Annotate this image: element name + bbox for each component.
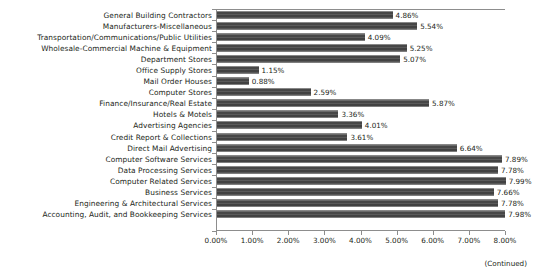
bar-value-label: 7.78% xyxy=(501,166,524,173)
category-label: Finance/Insurance/Real Estate xyxy=(99,99,212,108)
bar-group: 5.25% xyxy=(217,44,433,51)
bar xyxy=(217,11,393,18)
bar-value-label: 6.64% xyxy=(460,144,483,151)
bar xyxy=(217,22,417,29)
x-axis-tick-label: 3.00% xyxy=(313,236,336,245)
bar-group: 2.59% xyxy=(217,89,336,96)
x-axis-tick xyxy=(361,231,362,235)
bar xyxy=(217,200,498,207)
y-axis-tick xyxy=(212,42,216,43)
bar-value-label: 5.87% xyxy=(432,100,455,107)
category-label: Business Services xyxy=(145,188,212,197)
y-axis-tick xyxy=(212,20,216,21)
category-label: Mail Order Houses xyxy=(143,77,212,86)
y-axis-tick xyxy=(212,131,216,132)
category-label: Computer Software Services xyxy=(106,154,212,163)
continued-note: (Continued) xyxy=(485,259,528,268)
bar xyxy=(217,133,347,140)
x-axis-tick-label: 2.00% xyxy=(277,236,300,245)
bar-group: 4.09% xyxy=(217,33,391,40)
chart-row: Department Stores5.07% xyxy=(0,53,533,64)
category-label: Computer Stores xyxy=(149,88,212,97)
chart-row: Computer Stores2.59% xyxy=(0,87,533,98)
bar-group: 5.54% xyxy=(217,22,443,29)
chart-row: Computer Software Services7.89% xyxy=(0,153,533,164)
bar-value-label: 7.98% xyxy=(508,211,531,218)
x-axis-tick-label: 6.00% xyxy=(421,236,444,245)
bar-value-label: 4.01% xyxy=(365,122,388,129)
bar-value-label: 7.99% xyxy=(509,177,532,184)
bar-group: 4.01% xyxy=(217,122,388,129)
bar-value-label: 0.88% xyxy=(252,78,275,85)
chart-row: General Building Contractors4.86% xyxy=(0,9,533,20)
bar xyxy=(217,67,259,74)
category-label: Office Supply Stores xyxy=(136,66,212,75)
bar-group: 0.88% xyxy=(217,78,275,85)
category-label: General Building Contractors xyxy=(104,10,212,19)
category-label: Credit Report & Collections xyxy=(111,132,212,141)
category-label: Manufacturers-Miscellaneous xyxy=(103,21,212,30)
category-label: Data Processing Services xyxy=(118,165,212,174)
y-axis-tick xyxy=(212,76,216,77)
chart-row: Computer Related Services7.99% xyxy=(0,175,533,186)
bar-group: 5.07% xyxy=(217,55,426,62)
chart-row: Business Services7.66% xyxy=(0,187,533,198)
category-label: Accounting, Audit, and Bookkeeping Servi… xyxy=(42,210,212,219)
bar xyxy=(217,100,429,107)
x-axis-tick xyxy=(433,231,434,235)
category-label: Hotels & Motels xyxy=(153,110,212,119)
x-axis-tick-label: 5.00% xyxy=(385,236,408,245)
bar-value-label: 7.89% xyxy=(505,155,528,162)
bar-value-label: 5.54% xyxy=(420,22,443,29)
y-axis-tick xyxy=(212,153,216,154)
y-axis-tick xyxy=(212,98,216,99)
chart-row: Mail Order Houses0.88% xyxy=(0,76,533,87)
chart-row: Engineering & Architectural Services7.78… xyxy=(0,198,533,209)
category-label: Wholesale-Commercial Machine & Equipment xyxy=(41,43,212,52)
bar-group: 1.15% xyxy=(217,67,284,74)
x-axis-tick xyxy=(397,231,398,235)
bar-group: 7.89% xyxy=(217,155,528,162)
y-axis-tick xyxy=(212,120,216,121)
bar-value-label: 3.36% xyxy=(341,111,364,118)
category-label: Transportation/Communications/Public Uti… xyxy=(37,32,212,41)
bar xyxy=(217,89,311,96)
bar-group: 5.87% xyxy=(217,100,455,107)
bar xyxy=(217,55,400,62)
bar xyxy=(217,44,407,51)
x-axis-tick xyxy=(469,231,470,235)
bar-group: 7.78% xyxy=(217,166,524,173)
bar xyxy=(217,155,502,162)
bar-value-label: 7.66% xyxy=(497,189,520,196)
category-label: Direct Mail Advertising xyxy=(127,143,212,152)
chart-row: Advertising Agencies4.01% xyxy=(0,120,533,131)
y-axis-tick xyxy=(212,175,216,176)
bar-value-label: 7.78% xyxy=(501,200,524,207)
bar-value-label: 3.61% xyxy=(350,133,373,140)
y-axis-tick xyxy=(212,198,216,199)
x-axis-tick-label: 4.00% xyxy=(349,236,372,245)
y-axis-tick xyxy=(212,9,216,10)
chart-row: Accounting, Audit, and Bookkeeping Servi… xyxy=(0,209,533,220)
bar xyxy=(217,166,498,173)
x-axis-tick xyxy=(252,231,253,235)
chart-row: Manufacturers-Miscellaneous5.54% xyxy=(0,20,533,31)
bar-group: 7.98% xyxy=(217,211,531,218)
bar-value-label: 2.59% xyxy=(314,89,337,96)
chart-row: Finance/Insurance/Real Estate5.87% xyxy=(0,98,533,109)
x-axis-tick xyxy=(216,231,217,235)
x-axis: 0.00%1.00%2.00%3.00%4.00%5.00%6.00%7.00%… xyxy=(216,231,505,247)
bar-value-label: 5.25% xyxy=(410,44,433,51)
bar-group: 3.61% xyxy=(217,133,373,140)
chart-row: Transportation/Communications/Public Uti… xyxy=(0,31,533,42)
bar-value-label: 4.09% xyxy=(368,33,391,40)
bar xyxy=(217,189,494,196)
chart-row: Data Processing Services7.78% xyxy=(0,164,533,175)
bar-group: 7.66% xyxy=(217,189,520,196)
bar xyxy=(217,144,457,151)
y-axis-tick xyxy=(212,164,216,165)
x-axis-tick-label: 0.00% xyxy=(205,236,228,245)
y-axis-tick xyxy=(212,187,216,188)
x-axis-tick-label: 7.00% xyxy=(457,236,480,245)
chart-row: Credit Report & Collections3.61% xyxy=(0,131,533,142)
